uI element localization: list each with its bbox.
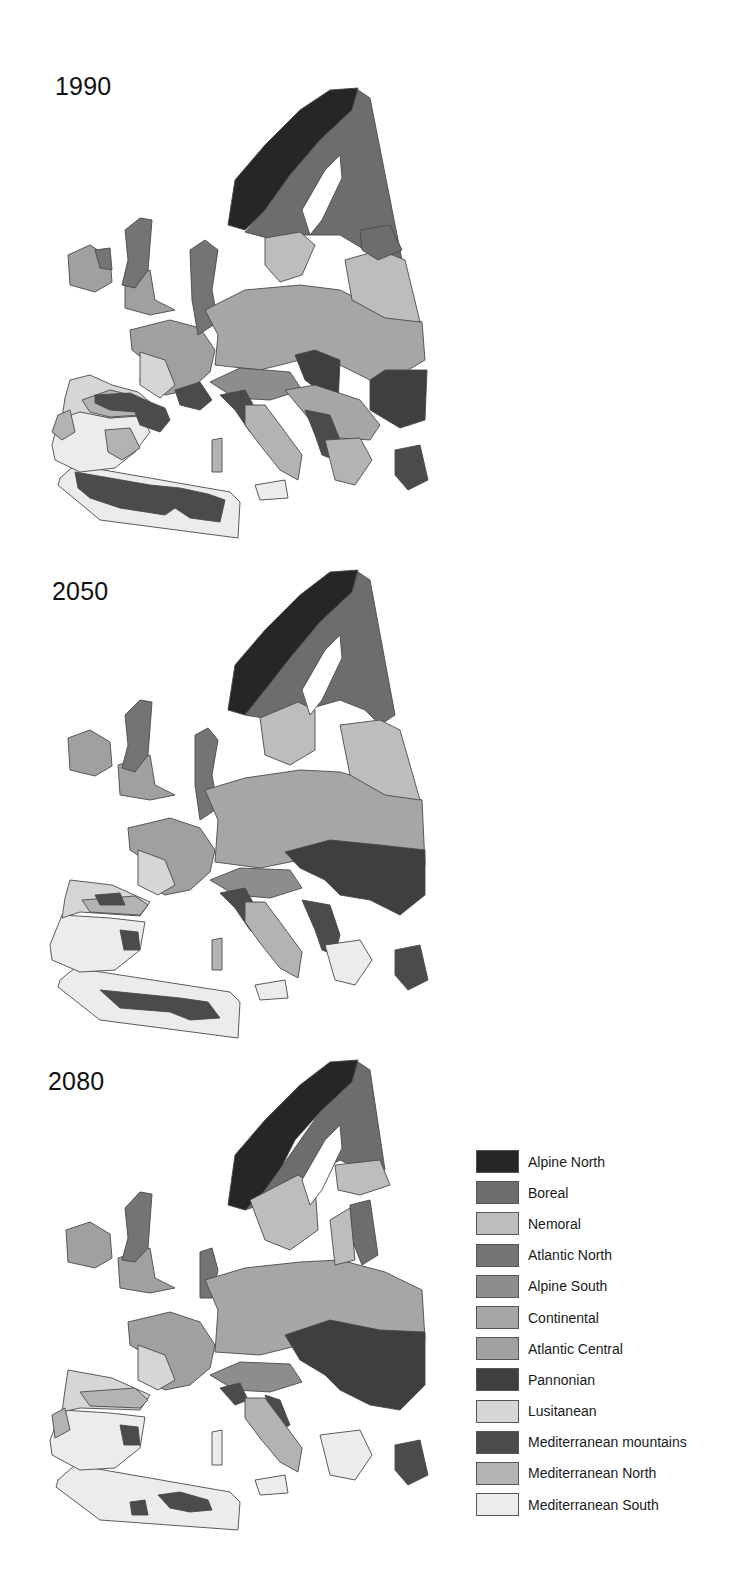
legend-swatch xyxy=(476,1493,519,1516)
region-mediterranean-south xyxy=(320,1430,372,1480)
legend-label: Boreal xyxy=(528,1185,568,1201)
region-nemoral xyxy=(265,232,315,282)
legend-label: Mediterranean North xyxy=(528,1465,656,1481)
legend-label: Mediterranean South xyxy=(528,1497,659,1513)
region-mediterranean-south xyxy=(325,940,372,985)
region-mediterranean-south xyxy=(255,1475,288,1495)
europe-zone-map xyxy=(40,60,440,550)
region-mediterranean-north xyxy=(325,438,372,485)
region-mediterranean-south xyxy=(212,1430,222,1465)
legend-item-mediterranean-south: Mediterranean South xyxy=(476,1489,734,1520)
region-atlantic-central xyxy=(68,730,112,776)
region-mediterranean-north xyxy=(245,902,302,978)
legend-item-boreal: Boreal xyxy=(476,1177,734,1208)
region-mediterranean-south xyxy=(255,980,288,1000)
region-mediterranean-north xyxy=(212,938,222,970)
legend-swatch xyxy=(476,1275,519,1298)
region-nemoral xyxy=(335,1160,390,1195)
legend-item-mediterranean-north: Mediterranean North xyxy=(476,1458,734,1489)
region-mediterranean-north xyxy=(212,438,222,472)
legend-item-lusitanean: Lusitanean xyxy=(476,1396,734,1427)
region-mediterranean-mountains xyxy=(120,1425,140,1445)
legend-item-alpine-north: Alpine North xyxy=(476,1146,734,1177)
map-panel-1990: 1990 xyxy=(0,60,734,550)
legend-item-atlantic-central: Atlantic Central xyxy=(476,1333,734,1364)
legend-swatch xyxy=(476,1337,519,1360)
region-mediterranean-mountains xyxy=(395,1440,428,1485)
region-nemoral xyxy=(330,1208,355,1265)
region-pannonian xyxy=(285,1320,425,1410)
legend-swatch xyxy=(476,1181,519,1204)
region-mediterranean-north xyxy=(245,405,302,480)
legend-item-pannonian: Pannonian xyxy=(476,1364,734,1395)
region-pannonian xyxy=(370,370,427,428)
legend-label: Alpine North xyxy=(528,1154,605,1170)
legend-swatch xyxy=(476,1212,519,1235)
region-mediterranean-south xyxy=(56,1465,240,1530)
legend-item-atlantic-north: Atlantic North xyxy=(476,1240,734,1271)
legend-item-continental: Continental xyxy=(476,1302,734,1333)
region-mediterranean-mountains xyxy=(130,1500,148,1515)
legend-label: Atlantic Central xyxy=(528,1341,623,1357)
legend-swatch xyxy=(476,1462,519,1485)
legend-label: Pannonian xyxy=(528,1372,595,1388)
legend-swatch xyxy=(476,1431,519,1454)
legend-label: Atlantic North xyxy=(528,1247,612,1263)
legend-swatch xyxy=(476,1150,519,1173)
region-mediterranean-mountains xyxy=(395,445,428,490)
region-mediterranean-mountains xyxy=(120,930,140,950)
legend-item-nemoral: Nemoral xyxy=(476,1208,734,1239)
legend-item-alpine-south: Alpine South xyxy=(476,1271,734,1302)
region-mediterranean-south xyxy=(255,480,288,500)
legend-label: Nemoral xyxy=(528,1216,581,1232)
region-mediterranean-mountains xyxy=(395,945,428,990)
region-mediterranean-north xyxy=(245,1398,302,1472)
region-mediterranean-north xyxy=(80,1388,148,1408)
region-atlantic-central xyxy=(66,1222,112,1268)
legend-swatch xyxy=(476,1400,519,1423)
legend-item-mediterranean-mountains: Mediterranean mountains xyxy=(476,1427,734,1458)
legend-swatch xyxy=(476,1306,519,1329)
legend-label: Mediterranean mountains xyxy=(528,1434,687,1450)
legend-swatch xyxy=(476,1368,519,1391)
region-mediterranean-mountains xyxy=(95,893,125,905)
map-legend: Alpine North Boreal Nemoral Atlantic Nor… xyxy=(476,1146,734,1520)
legend-swatch xyxy=(476,1244,519,1267)
europe-zone-map xyxy=(40,1040,440,1530)
legend-label: Lusitanean xyxy=(528,1403,597,1419)
map-panel-2050: 2050 xyxy=(0,550,734,1040)
legend-label: Alpine South xyxy=(528,1278,607,1294)
legend-label: Continental xyxy=(528,1310,599,1326)
europe-zone-map xyxy=(40,550,440,1040)
